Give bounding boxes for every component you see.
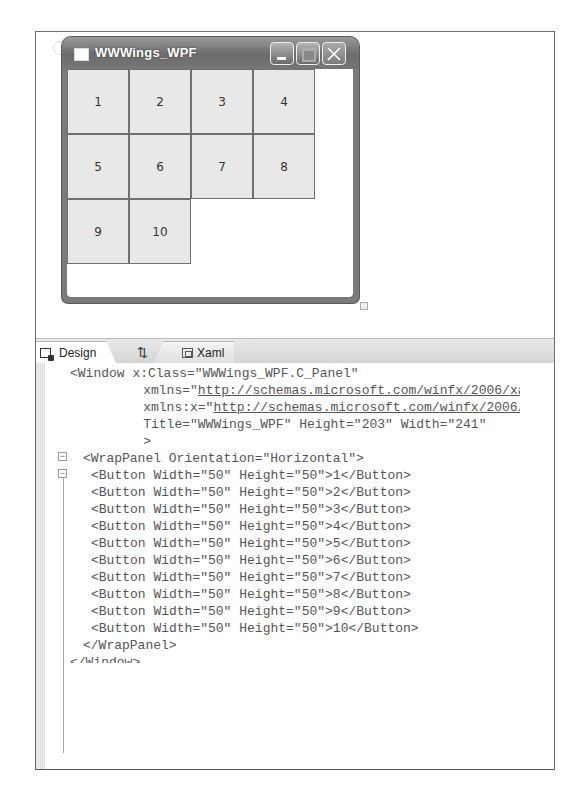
code-line: <Button Width="50" Height="50">9</Button… <box>91 603 411 620</box>
wpf-button-1[interactable]: 1 <box>67 69 129 134</box>
view-tabstrip: Design ⇅ Xaml <box>36 338 554 364</box>
wpf-button-6[interactable]: 6 <box>129 134 191 199</box>
code-line: <Button Width="50" Height="50">7</Button… <box>91 569 411 586</box>
wpf-button-3[interactable]: 3 <box>191 69 253 134</box>
wpf-button-4[interactable]: 4 <box>253 69 315 134</box>
wpf-button-10[interactable]: 10 <box>129 199 191 264</box>
tab-xaml-label: Xaml <box>197 346 224 360</box>
design-icon <box>40 348 51 358</box>
code-line: </Window> <box>70 654 140 663</box>
wpf-button-5[interactable]: 5 <box>67 134 129 199</box>
close-icon <box>326 46 342 62</box>
window-client-area: 1 2 3 4 5 6 7 8 9 10 <box>67 69 353 297</box>
resize-grip[interactable] <box>360 302 368 310</box>
swap-icon: ⇅ <box>137 345 148 360</box>
tab-xaml[interactable]: Xaml <box>154 341 234 363</box>
close-button[interactable] <box>322 42 346 65</box>
code-line: <Button Width="50" Height="50">3</Button… <box>91 501 411 518</box>
wpf-button-2[interactable]: 2 <box>129 69 191 134</box>
window-icon <box>74 48 89 61</box>
code-line: <WrapPanel Orientation="Horizontal"> <box>83 450 364 467</box>
code-line: <Button Width="50" Height="50">1</Button… <box>91 467 411 484</box>
design-surface[interactable]: WWWings_WPF 1 2 3 4 5 6 7 8 9 <box>36 32 554 338</box>
code-line: > <box>112 433 151 450</box>
code-line: xmlns="http://schemas.microsoft.com/winf… <box>112 382 520 399</box>
xaml-icon <box>182 348 193 358</box>
code-line: <Button Width="50" Height="50">5</Button… <box>91 535 411 552</box>
tab-design[interactable]: Design <box>36 341 116 363</box>
maximize-button[interactable] <box>296 42 320 65</box>
code-line: <Button Width="50" Height="50">8</Button… <box>91 586 411 603</box>
wpf-button-9[interactable]: 9 <box>67 199 129 264</box>
xmlns-x-link[interactable]: http://schemas.microsoft.com/winfx/2006/… <box>213 400 520 415</box>
code-line: <Button Width="50" Height="50">6</Button… <box>91 552 411 569</box>
code-line: Title="WWWings_WPF" Height="203" Width="… <box>112 416 486 433</box>
code-line: <Button Width="50" Height="50">4</Button… <box>91 518 411 535</box>
code-line: <Button Width="50" Height="50">2</Button… <box>91 484 411 501</box>
xmlns-link[interactable]: http://schemas.microsoft.com/winfx/2006/… <box>198 383 520 398</box>
minimize-button[interactable] <box>270 42 294 65</box>
xaml-designer-frame: WWWings_WPF 1 2 3 4 5 6 7 8 9 <box>35 31 555 770</box>
tab-design-label: Design <box>59 346 96 360</box>
code-line: xmlns:x="http://schemas.microsoft.com/wi… <box>112 399 520 416</box>
code-line: <Window x:Class="WWWings_WPF.C_Panel" <box>70 365 359 382</box>
wpf-window-preview[interactable]: WWWings_WPF 1 2 3 4 5 6 7 8 9 <box>62 37 359 303</box>
wpf-button-8[interactable]: 8 <box>253 134 315 199</box>
code-line: </WrapPanel> <box>83 637 177 654</box>
wpf-button-7[interactable]: 7 <box>191 134 253 199</box>
code-text[interactable]: <Window x:Class="WWWings_WPF.C_Panel" xm… <box>36 363 520 663</box>
wrap-panel: 1 2 3 4 5 6 7 8 9 10 <box>67 69 317 264</box>
window-titlebar[interactable]: WWWings_WPF <box>62 37 359 69</box>
window-title: WWWings_WPF <box>95 45 197 60</box>
code-line: <Button Width="50" Height="50">10</Butto… <box>91 620 419 637</box>
xaml-code-editor[interactable]: − − <Window x:Class="WWWings_WPF.C_Panel… <box>36 363 554 769</box>
